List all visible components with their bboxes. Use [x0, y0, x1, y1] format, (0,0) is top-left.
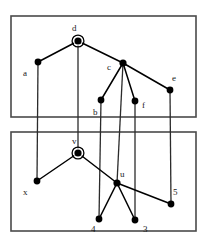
link-a-x: [37, 62, 38, 181]
node-label-a: a: [23, 68, 27, 78]
tree-edge-v-x: [37, 153, 78, 181]
node-dot-e[interactable]: [167, 87, 174, 94]
node-label-n3: 3: [143, 224, 148, 234]
node-n4[interactable]: [96, 216, 103, 223]
node-label-v: v: [72, 136, 77, 146]
tree-edges-layer: [37, 41, 171, 220]
link-b-n4: [99, 100, 101, 219]
node-dot-a[interactable]: [35, 59, 42, 66]
region-boxes-layer: [11, 16, 196, 231]
node-dot-v[interactable]: [74, 149, 81, 156]
diagram-canvas: dacebfvxu435: [0, 0, 209, 245]
graph-nodes-layer: [34, 35, 175, 223]
node-v[interactable]: [72, 147, 84, 159]
node-u[interactable]: [113, 179, 120, 186]
tree-edge-d-c: [78, 41, 123, 63]
node-dot-f[interactable]: [132, 98, 139, 105]
tree-edge-u-n4: [99, 183, 117, 219]
node-dot-d[interactable]: [74, 37, 81, 44]
tree-edge-d-a: [38, 41, 78, 62]
node-d[interactable]: [72, 35, 84, 47]
node-e[interactable]: [167, 87, 174, 94]
node-label-f: f: [142, 100, 145, 110]
node-dot-x[interactable]: [34, 178, 41, 185]
node-a[interactable]: [35, 59, 42, 66]
node-dot-c[interactable]: [119, 59, 126, 66]
node-label-n5: 5: [173, 187, 178, 197]
node-label-d: d: [72, 23, 77, 33]
node-dot-n4[interactable]: [96, 216, 103, 223]
link-e-n5: [170, 90, 171, 204]
node-n5[interactable]: [168, 201, 175, 208]
tree-edge-c-b: [101, 63, 123, 100]
node-label-x: x: [23, 187, 28, 197]
node-label-e: e: [172, 73, 176, 83]
node-c[interactable]: [119, 59, 126, 66]
node-n3[interactable]: [132, 217, 139, 224]
node-label-n4: 4: [91, 224, 96, 234]
node-dot-n5[interactable]: [168, 201, 175, 208]
link-c-u: [117, 63, 123, 183]
node-label-u: u: [120, 169, 125, 179]
node-label-c: c: [107, 62, 111, 72]
tree-edge-v-u: [78, 153, 117, 183]
node-dot-n3[interactable]: [132, 217, 139, 224]
graph-diagram: dacebfvxu435: [0, 0, 209, 245]
node-f[interactable]: [132, 98, 139, 105]
node-x[interactable]: [34, 178, 41, 185]
node-label-b: b: [93, 107, 98, 117]
node-b[interactable]: [98, 97, 105, 104]
cross-region-links-layer: [37, 41, 171, 220]
node-dot-u[interactable]: [113, 179, 120, 186]
node-dot-b[interactable]: [98, 97, 105, 104]
